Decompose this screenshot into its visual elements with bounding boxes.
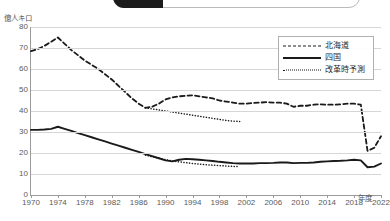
x-tick-label: 1986 bbox=[130, 199, 148, 207]
legend-swatch-solid bbox=[283, 53, 321, 63]
chart-container: 億人キロ 01020304050607080197019741978198219… bbox=[0, 9, 387, 221]
gridline bbox=[31, 111, 381, 112]
series-line-forecast-0 bbox=[145, 108, 239, 122]
x-tick-label: 1970 bbox=[22, 199, 40, 207]
x-tick-label: 2006 bbox=[264, 199, 282, 207]
x-tick-label: 1978 bbox=[76, 199, 94, 207]
legend-swatch-dashed bbox=[283, 41, 321, 51]
x-tick-label: 1990 bbox=[157, 199, 175, 207]
y-tick-label: 10 bbox=[19, 170, 28, 178]
x-tick-label: 1998 bbox=[211, 199, 229, 207]
x-tick-label: 1994 bbox=[184, 199, 202, 207]
series-line-forecast-1 bbox=[145, 155, 239, 167]
x-tick-label: 2010 bbox=[291, 199, 309, 207]
gridline bbox=[31, 174, 381, 175]
legend-item-2[interactable]: 改革時予測 bbox=[283, 64, 369, 76]
gridline bbox=[31, 27, 381, 28]
x-tick-label: 2022 bbox=[372, 199, 390, 207]
legend-item-1[interactable]: 四国 bbox=[283, 52, 369, 64]
y-tick-label: 50 bbox=[19, 86, 28, 94]
x-tick-label: 1982 bbox=[103, 199, 121, 207]
legend-label: 四国 bbox=[325, 54, 341, 62]
legend-label: 改革時予測 bbox=[325, 66, 365, 74]
x-tick-label: 2014 bbox=[318, 199, 336, 207]
gridline bbox=[31, 90, 381, 91]
y-tick-label: 60 bbox=[19, 65, 28, 73]
y-tick-label: 80 bbox=[19, 23, 28, 31]
toolbar-sliver bbox=[0, 0, 387, 9]
y-tick-label: 20 bbox=[19, 149, 28, 157]
legend-swatch-dotted bbox=[283, 65, 321, 75]
gridline bbox=[31, 132, 381, 133]
y-tick-label: 40 bbox=[19, 107, 28, 115]
x-axis-unit-label: 年度 bbox=[358, 192, 372, 203]
legend-item-0[interactable]: 北海道 bbox=[283, 40, 369, 52]
gridline bbox=[31, 153, 381, 154]
toolbar-active-chip[interactable] bbox=[113, 0, 163, 8]
y-tick-label: 70 bbox=[19, 44, 28, 52]
x-tick-label: 1974 bbox=[49, 199, 67, 207]
y-tick-label: 30 bbox=[19, 128, 28, 136]
chart-legend: 北海道四国改革時予測 bbox=[278, 36, 374, 80]
legend-label: 北海道 bbox=[325, 42, 349, 50]
x-tick-label: 2002 bbox=[237, 199, 255, 207]
